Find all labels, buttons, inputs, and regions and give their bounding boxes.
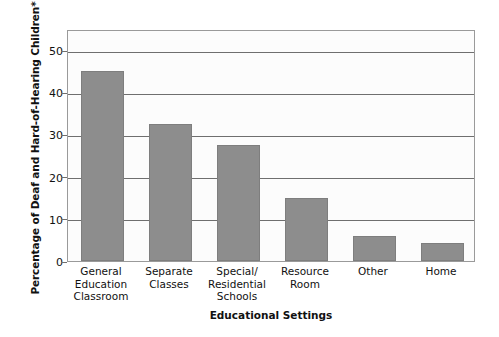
y-axis-tick-mark [61, 262, 67, 263]
y-axis-tick-mark [61, 93, 67, 94]
y-axis-tick-label: 0 [29, 256, 63, 269]
x-axis-tick-label-line: Room [271, 278, 339, 291]
y-axis-tick-label: 40 [29, 87, 63, 100]
plot-inner [68, 31, 474, 261]
x-axis-tick-label-line: Separate [135, 265, 203, 278]
y-axis-tick-mark [61, 219, 67, 220]
bar-chart-figure: Percentage of Deaf and Hard-of-Hearing C… [0, 0, 499, 337]
y-axis-tick-label: 50 [29, 45, 63, 58]
bar [81, 71, 124, 261]
x-axis-tick-label: ResourceRoom [271, 265, 339, 290]
x-axis-tick-label-line: Other [339, 265, 407, 278]
x-axis-tick-label-line: Classes [135, 278, 203, 291]
x-axis-tick-label: Other [339, 265, 407, 278]
bar [285, 198, 328, 261]
bar [149, 124, 192, 261]
y-axis-tick-label: 10 [29, 213, 63, 226]
x-axis-tick-label: SeparateClasses [135, 265, 203, 290]
x-axis-tick-label-line: Resource [271, 265, 339, 278]
y-axis-tick-mark [61, 135, 67, 136]
plot-area [67, 30, 475, 262]
y-axis-tick-mark [61, 177, 67, 178]
x-axis-tick-label-line: Special/ [203, 265, 271, 278]
gridline [68, 136, 474, 137]
x-axis-title: Educational Settings [67, 309, 475, 321]
bar [217, 145, 260, 261]
x-axis-tick-label-line: Classroom [67, 290, 135, 303]
x-axis-tick-label-line: Home [407, 265, 475, 278]
gridline [68, 178, 474, 179]
x-axis-tick-label: Home [407, 265, 475, 278]
gridline [68, 220, 474, 221]
y-axis-tick-labels: 01020304050 [25, 30, 63, 262]
x-axis-tick-label: GeneralEducationClassroom [67, 265, 135, 303]
x-axis-tick-label-line: Schools [203, 290, 271, 303]
x-axis-tick-label-line: Education [67, 278, 135, 291]
gridline [68, 52, 474, 53]
bar [353, 236, 396, 261]
y-axis-tick-mark [61, 51, 67, 52]
x-axis-tick-labels: GeneralEducationClassroomSeparateClasses… [67, 265, 475, 313]
y-axis-tick-label: 30 [29, 129, 63, 142]
x-axis-tick-label-line: General [67, 265, 135, 278]
x-axis-tick-label-line: Residential [203, 278, 271, 291]
gridline [68, 94, 474, 95]
bar [421, 243, 464, 261]
x-axis-tick-label: Special/ResidentialSchools [203, 265, 271, 303]
y-axis-tick-label: 20 [29, 171, 63, 184]
